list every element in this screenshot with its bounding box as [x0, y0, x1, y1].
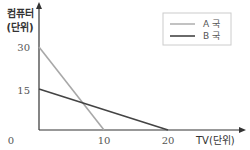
y-axis-arrow-icon [36, 2, 42, 9]
series-b-line [39, 89, 168, 130]
legend-box [163, 13, 231, 45]
legend-label-b: B 국 [203, 31, 220, 41]
y-tick-30: 30 [17, 42, 30, 53]
x-axis-arrow-icon [239, 127, 246, 133]
ppf-chart: 컴퓨터 (단위) 30 15 0 10 20 TV(단위) A 국 B 국 [0, 0, 250, 150]
y-tick-15: 15 [17, 85, 30, 96]
series-a-line [39, 47, 104, 130]
y-axis-title-line2: (단위) [6, 21, 33, 33]
x-tick-10: 10 [98, 135, 111, 146]
x-tick-20: 20 [162, 135, 175, 146]
legend-label-a: A 국 [203, 19, 220, 29]
legend: A 국 B 국 [163, 13, 231, 45]
x-axis-title: TV(단위) [195, 134, 235, 146]
y-axis-title-line1: 컴퓨터 [7, 7, 34, 19]
x-tick-0: 0 [8, 135, 14, 146]
